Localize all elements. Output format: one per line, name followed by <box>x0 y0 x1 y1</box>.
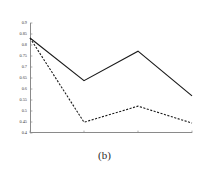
x-tick-marks <box>30 131 192 133</box>
series-solid-line <box>30 38 192 96</box>
figure-caption: (b) <box>0 148 209 162</box>
figure-panel: 0.90.850.80.750.70.650.60.550.50.450.4 (… <box>0 0 209 175</box>
series-dashed-line <box>30 38 192 123</box>
chart-plot-area <box>0 0 209 146</box>
chart-figure: 0.90.850.80.750.70.650.60.550.50.450.4 <box>0 0 209 146</box>
